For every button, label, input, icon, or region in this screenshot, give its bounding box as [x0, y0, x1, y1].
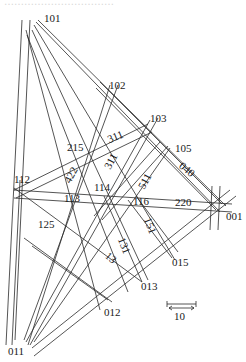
pole-label-013: 013 — [141, 281, 158, 292]
zone-line — [32, 246, 108, 300]
pole-label-220: 220 — [175, 197, 192, 208]
pole-label-012: 012 — [104, 307, 121, 318]
zone-line — [14, 124, 148, 190]
pole-label-001: 001 — [226, 211, 243, 222]
pole-label-116: 116 — [133, 196, 149, 207]
pole-label-011: 011 — [8, 346, 24, 357]
zone-line — [96, 88, 216, 210]
pole-label-101: 101 — [44, 13, 61, 24]
zone-line — [30, 118, 158, 345]
zone-line — [32, 190, 230, 348]
zone-label-215: 215 — [67, 142, 84, 153]
zone-line — [218, 186, 220, 230]
scale-bar — [167, 301, 196, 310]
pole-label-112: 112 — [14, 174, 30, 185]
scale-bar-label: 10 — [174, 311, 185, 322]
pole-label-105: 105 — [175, 143, 192, 154]
pole-label-102: 102 — [109, 80, 126, 91]
zone-line — [24, 85, 118, 340]
zone-line-diagram — [0, 0, 246, 362]
pole-label-015: 015 — [172, 257, 189, 268]
zone-line — [24, 238, 112, 302]
pole-label-125: 125 — [38, 219, 55, 230]
zone-line — [36, 22, 220, 212]
pole-label-114: 114 — [94, 182, 110, 193]
pole-label-103: 103 — [150, 113, 167, 124]
diagram-canvas: …………………………… — [0, 0, 246, 362]
zone-line — [34, 196, 236, 356]
zone-line — [100, 82, 222, 204]
pole-label-113: 113 — [64, 193, 80, 204]
zone-line — [14, 198, 232, 212]
